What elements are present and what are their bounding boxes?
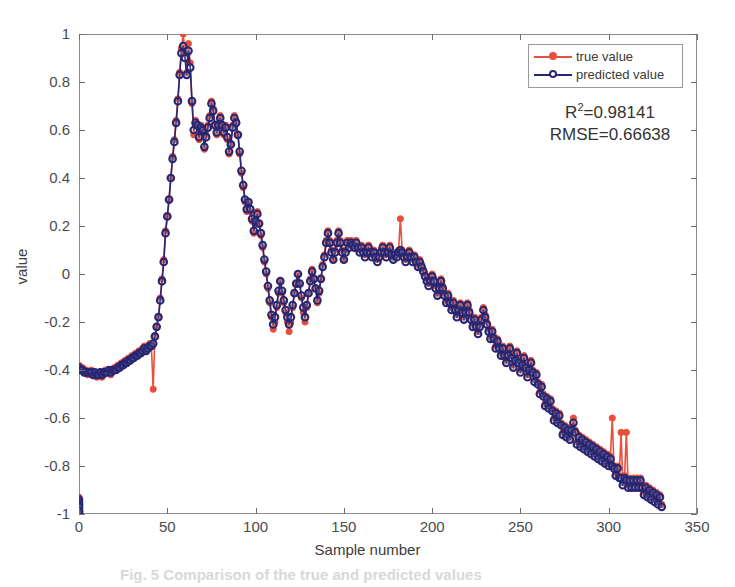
x-tick-label: 200 bbox=[402, 518, 462, 535]
legend-label-true-value: true value bbox=[576, 50, 633, 64]
y-tick-label: 0 bbox=[0, 265, 70, 282]
x-tick-mark-top bbox=[167, 34, 168, 40]
legend-item-true-value[interactable]: true value bbox=[534, 48, 677, 66]
x-tick-mark bbox=[167, 508, 168, 514]
y-tick-label: 0.4 bbox=[0, 169, 70, 186]
y-tick-label: 1 bbox=[0, 25, 70, 42]
legend[interactable]: true value predicted value bbox=[528, 44, 683, 88]
x-tick-label: 0 bbox=[49, 518, 109, 535]
y-tick-mark bbox=[79, 130, 85, 131]
x-tick-mark-top bbox=[520, 34, 521, 40]
y-tick-mark-right bbox=[691, 418, 697, 419]
x-tick-label: 300 bbox=[579, 518, 639, 535]
y-tick-mark-right bbox=[691, 274, 697, 275]
legend-swatch-predicted-value bbox=[534, 68, 572, 82]
x-tick-mark bbox=[344, 508, 345, 514]
y-tick-mark bbox=[79, 370, 85, 371]
x-tick-mark-top bbox=[609, 34, 610, 40]
x-tick-mark bbox=[609, 508, 610, 514]
y-tick-mark bbox=[79, 226, 85, 227]
y-tick-mark bbox=[79, 274, 85, 275]
legend-swatch-true-value bbox=[534, 50, 572, 64]
y-tick-mark bbox=[79, 514, 85, 515]
y-tick-mark-right bbox=[691, 82, 697, 83]
y-tick-label: 0.2 bbox=[0, 217, 70, 234]
x-tick-mark bbox=[256, 508, 257, 514]
rmse-annotation: RMSE=0.66638 bbox=[520, 124, 700, 146]
x-tick-label: 100 bbox=[226, 518, 286, 535]
y-tick-mark-right bbox=[691, 226, 697, 227]
y-tick-label: -0.8 bbox=[0, 457, 70, 474]
x-tick-mark-top bbox=[256, 34, 257, 40]
y-tick-label: 0.8 bbox=[0, 73, 70, 90]
x-tick-mark bbox=[697, 508, 698, 514]
y-tick-label: -0.4 bbox=[0, 361, 70, 378]
y-tick-mark-right bbox=[691, 466, 697, 467]
x-axis-title: Sample number bbox=[0, 541, 735, 558]
r-squared-value: =0.98141 bbox=[584, 103, 655, 122]
y-tick-mark bbox=[79, 82, 85, 83]
y-tick-mark bbox=[79, 178, 85, 179]
r-squared-annotation: R2=0.98141 bbox=[520, 96, 700, 124]
x-tick-mark-top bbox=[79, 34, 80, 40]
x-tick-label: 50 bbox=[137, 518, 197, 535]
x-tick-label: 150 bbox=[314, 518, 374, 535]
figure-container: 10.80.60.40.20-0.2-0.4-0.6-0.8-1 0501001… bbox=[0, 0, 735, 587]
y-tick-mark-right bbox=[691, 178, 697, 179]
y-tick-label: 0.6 bbox=[0, 121, 70, 138]
y-tick-mark-right bbox=[691, 514, 697, 515]
x-tick-mark-top bbox=[432, 34, 433, 40]
y-axis-title: value bbox=[13, 222, 30, 312]
legend-label-predicted-value: predicted value bbox=[576, 68, 664, 82]
y-tick-mark-right bbox=[691, 322, 697, 323]
y-tick-mark bbox=[79, 322, 85, 323]
r-squared-prefix: R bbox=[565, 103, 577, 122]
legend-item-predicted-value[interactable]: predicted value bbox=[534, 66, 677, 84]
x-tick-mark bbox=[432, 508, 433, 514]
x-tick-mark bbox=[79, 508, 80, 514]
x-tick-mark-top bbox=[697, 34, 698, 40]
y-tick-mark-right bbox=[691, 370, 697, 371]
x-tick-mark-top bbox=[344, 34, 345, 40]
y-tick-label: -0.2 bbox=[0, 313, 70, 330]
y-tick-label: -0.6 bbox=[0, 409, 70, 426]
x-tick-label: 350 bbox=[667, 518, 727, 535]
figure-caption: Fig. 5 Comparison of the true and predic… bbox=[120, 566, 640, 583]
stats-annotation: R2=0.98141 RMSE=0.66638 bbox=[520, 96, 700, 146]
y-tick-mark bbox=[79, 418, 85, 419]
x-tick-label: 250 bbox=[490, 518, 550, 535]
x-tick-mark bbox=[520, 508, 521, 514]
y-tick-mark bbox=[79, 466, 85, 467]
